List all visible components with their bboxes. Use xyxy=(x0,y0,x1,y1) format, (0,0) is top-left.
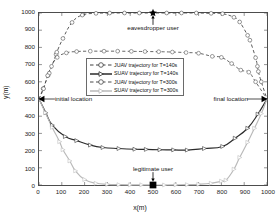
series-2-marker xyxy=(75,50,79,54)
series-1-marker xyxy=(117,147,121,151)
series-1-marker xyxy=(89,143,93,147)
series-2-marker xyxy=(254,80,258,84)
legend-item-2: JUAV trajectory for T=300s xyxy=(89,78,181,87)
y-tick-800: 800 xyxy=(12,44,35,50)
series-0-marker xyxy=(108,11,112,15)
y-tick-100: 100 xyxy=(12,165,35,171)
series-3-marker xyxy=(128,183,132,187)
series-0-marker xyxy=(238,20,242,24)
series-1-marker xyxy=(221,144,225,148)
series-0-marker xyxy=(256,70,260,74)
series-0-marker xyxy=(94,11,98,15)
series-0-marker xyxy=(194,11,198,15)
x-tick-1000: 1000 xyxy=(261,189,275,195)
legend-label-3: SUAV trajectory for T=300s xyxy=(113,88,178,93)
series-3-marker xyxy=(83,178,87,182)
series-3-marker xyxy=(94,181,98,185)
series-3-marker xyxy=(174,183,178,187)
y-tick-0: 0 xyxy=(12,183,35,189)
series-1-marker xyxy=(185,148,189,152)
initial-location-annotation: initial location xyxy=(55,96,92,102)
x-tick-900: 900 xyxy=(240,189,250,195)
series-0-marker xyxy=(70,21,74,25)
series-0-marker xyxy=(80,13,84,17)
y-tick-900: 900 xyxy=(12,26,35,32)
x-tick-700: 700 xyxy=(194,189,204,195)
initial-location-marker xyxy=(39,96,45,103)
eavesdropper-star-icon xyxy=(149,9,157,17)
y-tick-300: 300 xyxy=(12,131,35,137)
series-2-marker xyxy=(116,49,120,53)
x-tick-300: 300 xyxy=(102,189,112,195)
series-3-marker xyxy=(117,183,121,187)
series-2-marker xyxy=(42,87,46,91)
eavesdropper-user-annotation: eavesdropper user xyxy=(127,25,179,31)
y-tick-400: 400 xyxy=(12,113,35,119)
series-3-marker xyxy=(220,179,224,183)
series-0-marker xyxy=(248,38,252,42)
series-2-marker xyxy=(239,68,243,72)
series-0-marker xyxy=(165,11,169,15)
x-tick-0: 0 xyxy=(36,189,39,195)
series-2-marker xyxy=(102,49,106,53)
series-2-marker xyxy=(143,50,147,54)
series-3-marker xyxy=(224,178,228,182)
x-tick-500: 500 xyxy=(148,189,158,195)
series-0-marker xyxy=(55,50,59,54)
series-2-marker xyxy=(64,51,68,55)
legend-swatch-1 xyxy=(89,70,113,78)
series-3-marker xyxy=(74,169,78,173)
series-2-marker xyxy=(230,62,234,66)
series-0-marker xyxy=(254,56,258,60)
legend-label-1: SUAV trajectory for T=140s xyxy=(113,71,178,76)
legend-item-0: JUAV trajectory for T=140s xyxy=(89,61,181,70)
series-0-marker xyxy=(209,11,213,15)
series-3-marker xyxy=(232,167,236,171)
series-2-marker xyxy=(50,64,54,68)
series-2-marker xyxy=(247,70,251,74)
y-tick-1000: 1000 xyxy=(12,9,35,15)
series-3-marker xyxy=(246,140,250,144)
series-1-marker xyxy=(233,136,237,140)
series-3-marker xyxy=(238,156,242,160)
series-1-marker xyxy=(63,135,67,139)
series-2-marker xyxy=(129,49,133,53)
x-tick-400: 400 xyxy=(125,189,135,195)
series-1-marker xyxy=(75,139,79,143)
series-3-marker xyxy=(61,148,65,152)
y-tick-600: 600 xyxy=(12,78,35,84)
legend-item-1: SUAV trajectory for T=140s xyxy=(89,70,181,79)
series-1-marker xyxy=(133,147,137,151)
legend-item-3: SUAV trajectory for T=300s xyxy=(89,87,181,96)
series-2-marker xyxy=(157,50,161,54)
figure: 01002003004005006007008009001000 0100200… xyxy=(0,0,280,224)
legend-label-0: JUAV trajectory for T=140s xyxy=(113,63,177,68)
series-3-marker xyxy=(140,183,144,187)
series-3-marker xyxy=(209,181,213,185)
series-3-marker xyxy=(260,112,264,116)
series-2-marker xyxy=(184,51,188,55)
legend-swatch-2 xyxy=(89,78,113,86)
series-0-marker xyxy=(232,15,236,19)
series-2-marker xyxy=(210,54,214,58)
series-3-marker xyxy=(197,182,201,186)
x-axis-label: x(m) xyxy=(0,204,280,211)
series-0-marker xyxy=(180,11,184,15)
series-0-marker xyxy=(137,11,141,15)
series-2-marker xyxy=(220,55,224,59)
series-0-marker xyxy=(259,80,263,84)
final-location-annotation: final location xyxy=(214,96,248,102)
series-3-marker xyxy=(68,159,72,163)
series-2-marker xyxy=(197,51,201,55)
series-1-marker xyxy=(158,148,162,152)
series-2-marker xyxy=(55,55,59,59)
y-tick-500: 500 xyxy=(12,96,35,102)
series-3-marker xyxy=(185,183,189,187)
series-0-marker xyxy=(256,64,260,68)
x-tick-800: 800 xyxy=(217,189,227,195)
series-1-marker xyxy=(172,148,176,152)
legend: JUAV trajectory for T=140sSUAV trajector… xyxy=(86,58,184,96)
series-3-marker xyxy=(163,183,167,187)
series-2-marker xyxy=(170,50,174,54)
legend-swatch-3 xyxy=(89,87,113,95)
